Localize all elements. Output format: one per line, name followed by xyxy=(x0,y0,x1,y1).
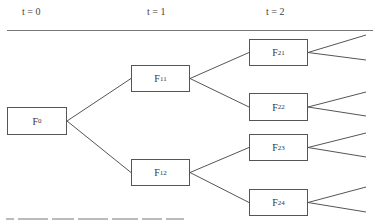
open-branch-f22 xyxy=(308,92,366,107)
edge-f11-f22 xyxy=(190,79,249,108)
node-subscript: 21 xyxy=(278,49,285,57)
edge-f12-f23 xyxy=(190,148,249,173)
node-f24: F24 xyxy=(249,189,308,216)
edge-f0-f11 xyxy=(67,79,131,122)
open-branch-f21 xyxy=(308,35,366,53)
node-f22: F22 xyxy=(249,93,308,121)
open-branch-f24 xyxy=(308,187,366,203)
clipped-caption xyxy=(6,218,196,221)
edge-f0-f12 xyxy=(67,121,131,173)
node-f11: F11 xyxy=(131,65,190,92)
open-branch-f21 xyxy=(308,53,366,61)
node-subscript: 23 xyxy=(278,144,285,152)
node-subscript: 12 xyxy=(160,169,167,177)
node-subscript: 24 xyxy=(278,199,285,207)
edge-f11-f21 xyxy=(190,53,249,79)
edge-f12-f24 xyxy=(190,173,249,203)
open-branch-f23 xyxy=(308,133,366,148)
node-f23: F23 xyxy=(249,134,308,161)
node-subscript: 11 xyxy=(160,75,167,83)
open-branch-f24 xyxy=(308,203,366,213)
open-branch-f23 xyxy=(308,148,366,158)
node-f0: F0 xyxy=(7,107,67,135)
open-branch-f22 xyxy=(308,107,366,116)
node-f12: F12 xyxy=(131,159,190,186)
node-f21: F21 xyxy=(249,39,308,66)
node-subscript: 0 xyxy=(38,117,42,125)
node-subscript: 22 xyxy=(278,103,285,111)
